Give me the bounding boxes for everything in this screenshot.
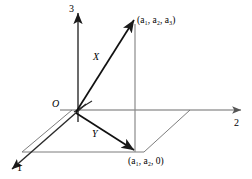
vector-y-line xyxy=(76,113,134,150)
axis-1-label: 1 xyxy=(17,163,22,173)
vector-diagram-figure: 3 2 1 O X Y (a₁, a₂, a₃) (a₁, a₂, 0) xyxy=(0,0,252,179)
diagram-canvas xyxy=(0,0,252,179)
point-top-label: (a₁, a₂, a₃) xyxy=(137,16,175,26)
axis-1-line xyxy=(12,104,86,169)
vector-y-label: Y xyxy=(92,129,98,139)
point-bottom-label: (a₁, a₂, 0) xyxy=(128,157,164,167)
axis-3-label: 3 xyxy=(69,4,74,14)
axis-2-label: 2 xyxy=(234,118,239,128)
ground-plane-parallelogram xyxy=(22,110,190,152)
vector-x-label: X xyxy=(93,52,99,62)
vector-x-line xyxy=(76,20,134,112)
origin-label: O xyxy=(52,99,59,109)
